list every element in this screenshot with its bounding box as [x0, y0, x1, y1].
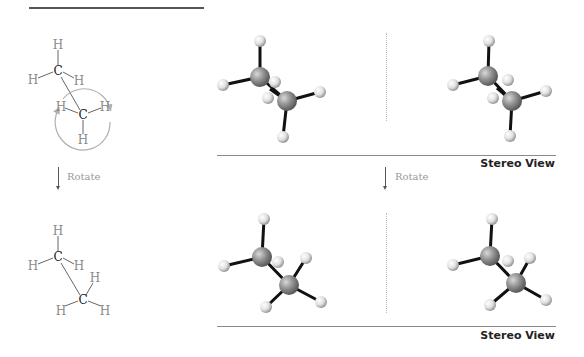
- stereo-divider-top: [386, 33, 387, 121]
- atoms-top-left: [217, 35, 326, 143]
- rotate-arrow-icon: [58, 167, 59, 187]
- svg-text:H: H: [78, 133, 88, 147]
- stereo-view-label-bottom: Stereo View: [480, 329, 555, 342]
- stereo-divider-bottom: [386, 213, 387, 313]
- svg-text:H: H: [56, 304, 66, 318]
- rotate-label-left: Rotate: [67, 171, 100, 182]
- rotate-arrow-icon: [385, 167, 386, 187]
- section-rule-top: [217, 155, 556, 156]
- svg-text:H: H: [28, 259, 38, 273]
- svg-text:H: H: [90, 271, 100, 285]
- formula-c: C: [53, 64, 62, 78]
- svg-text:H: H: [74, 259, 84, 273]
- formula-h: H: [53, 38, 63, 52]
- svg-text:H: H: [74, 74, 84, 88]
- svg-text:H: H: [28, 73, 38, 87]
- stereo-view-label-top: Stereo View: [480, 157, 555, 170]
- svg-text:H: H: [100, 304, 110, 318]
- svg-text:H: H: [53, 224, 63, 238]
- svg-text:C: C: [53, 250, 62, 264]
- formula-top-bonds: [38, 50, 101, 134]
- section-rule-bottom: [217, 326, 556, 327]
- svg-text:H: H: [100, 100, 110, 114]
- rotate-label-right: Rotate: [395, 171, 428, 182]
- svg-text:C: C: [78, 108, 87, 122]
- svg-text:H: H: [56, 100, 66, 114]
- svg-text:C: C: [78, 293, 87, 307]
